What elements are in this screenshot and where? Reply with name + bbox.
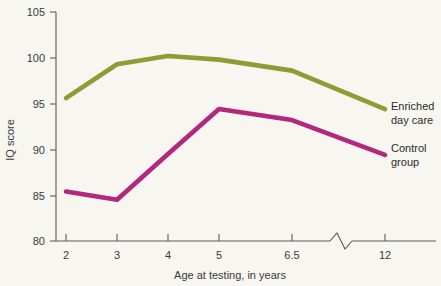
x-axis-title: Age at testing, in years <box>174 269 286 281</box>
y-tick-label-85: 85 <box>33 190 45 202</box>
series-label-enriched-line1: Enriched <box>391 100 434 112</box>
chart-background <box>0 0 441 286</box>
series-label-enriched-line2: day care <box>391 114 433 126</box>
series-label-control-line1: Control <box>391 142 426 154</box>
y-tick-label-80: 80 <box>33 235 45 247</box>
y-tick-label-105: 105 <box>27 6 45 18</box>
x-tick-label-5: 5 <box>216 249 222 261</box>
series-label-control-line2: group <box>391 156 419 168</box>
x-tick-label-3: 3 <box>114 249 120 261</box>
y-tick-label-100: 100 <box>27 52 45 64</box>
y-axis-title: IQ score <box>4 119 16 161</box>
chart-svg: 105 100 95 90 85 80 2 3 4 5 6.5 12 Age a… <box>0 0 441 286</box>
y-tick-label-90: 90 <box>33 144 45 156</box>
x-tick-label-4: 4 <box>165 249 171 261</box>
x-tick-label-2: 2 <box>63 249 69 261</box>
iq-score-line-chart: 105 100 95 90 85 80 2 3 4 5 6.5 12 Age a… <box>0 0 441 286</box>
y-tick-label-95: 95 <box>33 98 45 110</box>
x-tick-label-12: 12 <box>379 249 391 261</box>
x-tick-label-6-5: 6.5 <box>284 249 299 261</box>
